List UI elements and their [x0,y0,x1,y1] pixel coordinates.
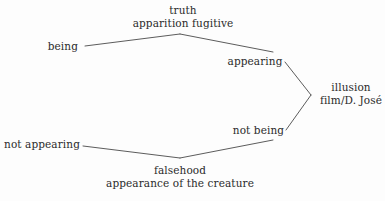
node-falsehood: falsehood appearance of the creature [90,164,270,190]
node-illusion: illusion film/D. José [318,81,384,107]
node-illusion-sublabel: film/D. José [318,94,384,107]
diagram-canvas: truth apparition fugitive being appearin… [0,0,385,201]
edge-falsehood-to-not-appearing [83,146,180,158]
edge-appearing-to-illusion [285,62,311,95]
node-appearing: appearing [226,55,284,68]
node-not-being: not being [231,124,286,137]
node-truth-label: truth [169,4,196,16]
node-being-label: being [48,40,78,52]
node-truth-sublabel: apparition fugitive [120,17,246,30]
edge-illusion-to-not-being [286,95,311,130]
node-truth: truth apparition fugitive [120,4,246,30]
node-appearing-label: appearing [228,55,283,67]
edge-not-being-to-falsehood [180,140,273,158]
edge-truth-to-appearing [180,34,273,52]
node-falsehood-sublabel: appearance of the creature [90,177,270,190]
node-not-being-label: not being [233,124,284,136]
node-not-appearing-label: not appearing [4,138,80,150]
node-not-appearing: not appearing [2,138,80,151]
node-illusion-label: illusion [331,81,370,93]
node-falsehood-label: falsehood [154,164,206,176]
edge-being-to-truth [85,34,180,46]
node-being: being [18,40,78,53]
